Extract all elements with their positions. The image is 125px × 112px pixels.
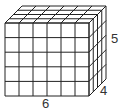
height-label: 5	[111, 31, 118, 46]
depth-label: 4	[100, 83, 107, 98]
length-label: 6	[42, 96, 49, 111]
